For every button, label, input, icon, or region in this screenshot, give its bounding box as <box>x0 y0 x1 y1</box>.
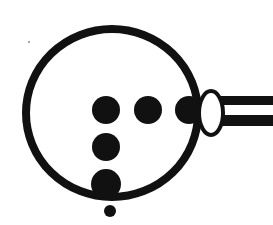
rod-bar-bottom <box>219 115 273 126</box>
stray-speck <box>28 41 30 43</box>
figure-canvas: A thick circular ring outline containing… <box>0 0 273 225</box>
rod-bar-top <box>219 96 273 105</box>
row-dot-middle <box>134 96 162 124</box>
column-dot-mid <box>92 133 120 161</box>
column-dot-low <box>91 169 121 199</box>
row-dot-left <box>92 96 120 124</box>
white-ellipse <box>199 91 223 135</box>
tiny-dot-bottom <box>104 205 116 217</box>
schematic-drawing <box>0 0 273 225</box>
